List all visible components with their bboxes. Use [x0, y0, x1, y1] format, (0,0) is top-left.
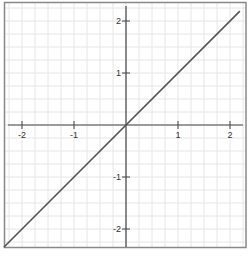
y-tick-label: -2: [113, 224, 121, 234]
x-tick-label: 2: [227, 130, 232, 140]
y-tick-label: -1: [113, 172, 121, 182]
x-tick-label: -1: [70, 130, 78, 140]
y-tick-label: 2: [116, 16, 121, 26]
x-tick-label: 1: [175, 130, 180, 140]
chart-plot: -2-11221-1-2: [0, 0, 250, 257]
x-tick-label: -2: [18, 130, 26, 140]
y-tick-label: 1: [116, 68, 121, 78]
